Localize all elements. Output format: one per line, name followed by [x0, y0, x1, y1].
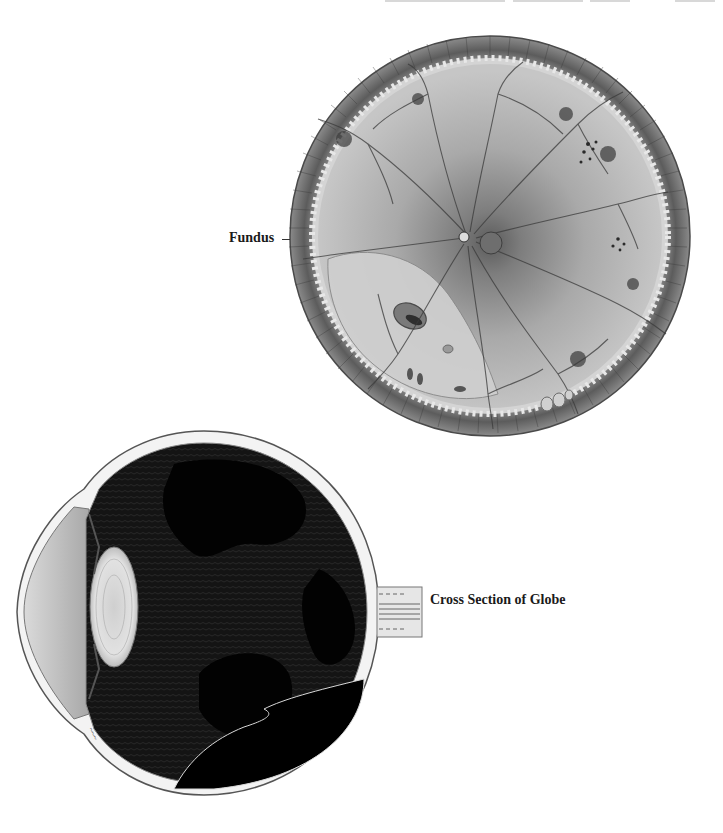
- macula: [480, 232, 502, 254]
- header-page-number: [675, 0, 715, 2]
- header-text-fragment: [513, 0, 583, 2]
- globe-cross-section-illustration: ~~~: [14, 429, 434, 799]
- header-text-fragment: [590, 0, 630, 2]
- fundus-illustration: [288, 34, 692, 438]
- optic-nerve: [377, 587, 422, 637]
- optic-disc: [459, 232, 469, 242]
- cropped-header: [385, 0, 715, 3]
- header-text-fragment: [385, 0, 505, 2]
- globe-label: Cross Section of Globe: [430, 592, 565, 608]
- anterior-chamber: [24, 507, 89, 719]
- fundus-label: Fundus: [229, 230, 274, 246]
- fundus-leader-line: [282, 239, 290, 240]
- lens: [90, 547, 138, 667]
